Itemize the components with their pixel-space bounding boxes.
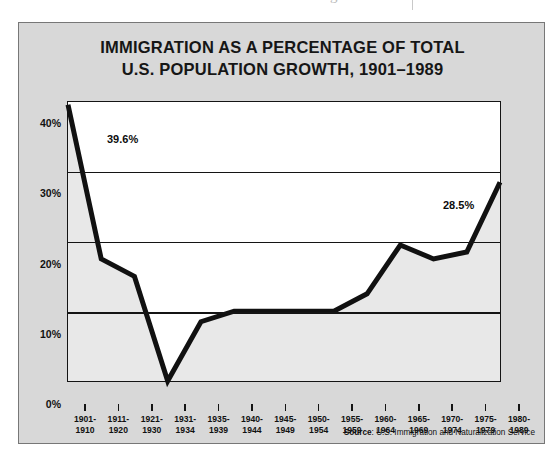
chart-title-line-1-visible: IMMIGRATION AS A PERCENTAGE OF TOTAL	[100, 38, 464, 56]
y-axis: 0%10%20%30%40%	[19, 123, 61, 404]
x-tick-1965-1969	[418, 404, 420, 411]
x-tick-label-part: 1975-	[475, 414, 497, 425]
x-tick-1955-1959	[351, 404, 353, 411]
gridline-30%	[68, 172, 500, 174]
x-tick-label-1931-1934: 1931-1934	[174, 414, 196, 435]
chart-title-line-2: U.S. POPULATION GROWTH, 1901–1989	[19, 58, 546, 80]
x-tick-label-1911-1920: 1911-1920	[108, 414, 130, 435]
page-top-artifact: g	[0, 0, 557, 14]
x-tick-1921-1930	[151, 404, 153, 411]
x-tick-label-1950-1954: 1950-1954	[308, 414, 330, 435]
x-tick-label-part: 1931-	[174, 414, 196, 425]
y-tick-label-30%: 30%	[23, 187, 61, 199]
gridline-20%	[68, 242, 500, 244]
x-tick-1960-1964	[385, 404, 387, 411]
x-tick-1975-1979	[485, 404, 487, 411]
x-tick-1950-1954	[318, 404, 320, 411]
y-tick-label-20%: 20%	[23, 258, 61, 270]
x-tick-label-part: 1939	[208, 425, 230, 436]
x-tick-label-part: 1944	[241, 425, 263, 436]
x-tick-label-part: 1960-	[374, 414, 396, 425]
source-label: Source	[344, 428, 372, 437]
gridline-10%	[68, 312, 500, 314]
x-tick-label-part: 1910	[74, 425, 96, 436]
x-tick-1911-1920	[118, 404, 120, 411]
x-tick-1931-1934	[184, 404, 186, 411]
source-text: U.S. Immigration and Naturalization Serv…	[376, 428, 535, 437]
x-tick-label-part: 1970-	[441, 414, 463, 425]
x-tick-1935-1939	[218, 404, 220, 411]
y-tick-label-40%: 40%	[23, 117, 61, 129]
x-tick-1980-1989	[518, 404, 520, 411]
x-tick-label-part: 1920	[108, 425, 130, 436]
data-label-1980-1989: 28.5%	[443, 199, 474, 211]
x-tick-label-part: 1921-	[141, 414, 163, 425]
x-tick-label-part: 1954	[308, 425, 330, 436]
y-tick-label-10%: 10%	[23, 328, 61, 340]
x-tick-label-1901-1910: 1901-1910	[74, 414, 96, 435]
y-tick-label-0%: 0%	[23, 398, 61, 410]
x-tick-label-part: 1940-	[241, 414, 263, 425]
x-axis: 1901-19101911-19201921-19301931-19341935…	[85, 404, 519, 450]
cut-off-text: g	[330, 0, 339, 4]
x-tick-label-part: 1934	[174, 425, 196, 436]
chart-figure-frame: IMMIGRATION AS A PERCENTAGE OF TOTAL U.S…	[18, 22, 545, 444]
x-tick-label-1945-1949: 1945-1949	[274, 414, 296, 435]
x-tick-1940-1944	[251, 404, 253, 411]
x-tick-label-1940-1944: 1940-1944	[241, 414, 263, 435]
x-tick-label-1921-1930: 1921-1930	[141, 414, 163, 435]
x-tick-1970-1974	[451, 404, 453, 411]
x-tick-label-part: 1965-	[408, 414, 430, 425]
x-tick-label-part: 1935-	[208, 414, 230, 425]
x-tick-label-part: 1980-	[508, 414, 530, 425]
x-tick-label-part: 1955-	[341, 414, 363, 425]
x-tick-label-part: 1949	[274, 425, 296, 436]
x-tick-1901-1910	[84, 404, 86, 411]
x-tick-label-part: 1930	[141, 425, 163, 436]
x-tick-label-1935-1939: 1935-1939	[208, 414, 230, 435]
chart-title: IMMIGRATION AS A PERCENTAGE OF TOTAL U.S…	[19, 36, 546, 80]
x-tick-label-part: 1911-	[108, 414, 130, 425]
source-note: Source: U.S. Immigration and Naturalizat…	[344, 428, 535, 437]
x-tick-1945-1949	[285, 404, 287, 411]
page-rule	[412, 0, 413, 10]
x-tick-label-part: 1901-	[74, 414, 96, 425]
data-label-1901-1910: 39.6%	[107, 133, 138, 145]
x-tick-label-part: 1945-	[274, 414, 296, 425]
x-tick-label-part: 1950-	[308, 414, 330, 425]
